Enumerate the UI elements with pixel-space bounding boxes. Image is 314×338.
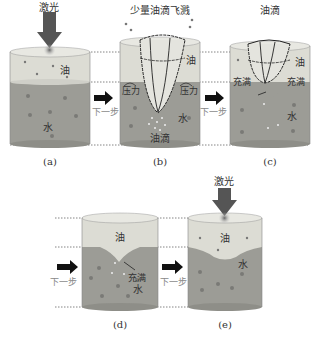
caption-b: (b)	[153, 156, 167, 167]
right-arrow-icon	[205, 91, 224, 105]
laser-burst-icon	[219, 212, 231, 224]
right-arrow-icon	[162, 260, 183, 274]
panel-a: 激光 油 水 (a)	[10, 1, 90, 167]
right-arrow-icon	[57, 260, 78, 274]
panel-e: 激光 油 水 (e)	[188, 175, 262, 330]
caption-a: (a)	[43, 156, 57, 167]
laser-label-e: 激光	[214, 175, 234, 187]
water-label-d: 水	[133, 284, 143, 295]
next-step-arrow-de: 下一步	[160, 260, 187, 287]
next-step-arrow-ab: 下一步	[92, 91, 119, 117]
laser-arrow-icon	[37, 12, 62, 48]
water-label-e: 水	[238, 259, 248, 270]
fill-label-d: 充满	[128, 272, 146, 283]
fill-label-left-c: 充满	[233, 76, 251, 87]
water-label-c: 水	[287, 111, 297, 122]
next-step-arrow-cd: 下一步	[50, 260, 78, 287]
pressure-label-right-b: 压力	[180, 85, 198, 96]
oil-label-c: 油	[295, 56, 305, 68]
oil-label-e: 油	[220, 232, 230, 244]
laser-oil-water-diagram: 激光 油 水 (a) 下一步	[0, 0, 314, 338]
panel-d: 油 充满 水 (d)	[82, 213, 158, 330]
next-step-label-ab: 下一步	[92, 107, 119, 117]
next-step-label-bc: 下一步	[200, 107, 227, 117]
oil-label-b: 油	[186, 54, 196, 66]
next-step-label-de: 下一步	[160, 277, 187, 287]
splash-label-b: 少量油滴飞溅	[130, 4, 190, 16]
panel-c: 油滴 油 充满 充满 水 (c)	[230, 4, 310, 167]
droplet-label-b: 油滴	[150, 132, 170, 144]
caption-d: (d)	[113, 319, 127, 330]
oil-label-a: 油	[60, 64, 70, 76]
water-label-b: 水	[178, 113, 188, 124]
laser-label-a: 激光	[39, 1, 59, 13]
pressure-label-left-b: 压力	[122, 85, 140, 96]
next-step-label-cd: 下一步	[50, 277, 77, 287]
fill-label-right-c: 充满	[287, 76, 305, 87]
laser-arrow-icon	[212, 188, 237, 216]
caption-c: (c)	[263, 156, 277, 167]
next-step-arrow-bc: 下一步	[200, 91, 227, 117]
right-arrow-icon	[94, 91, 113, 105]
water-label-a: 水	[43, 122, 53, 133]
droplet-label-c: 油滴	[260, 4, 280, 16]
panel-b: 少量油滴飞溅 油 压力 压力 水 油滴 (b)	[120, 4, 200, 167]
caption-e: (e)	[218, 319, 232, 330]
oil-label-d: 油	[115, 231, 125, 243]
laser-burst-icon	[44, 44, 56, 56]
